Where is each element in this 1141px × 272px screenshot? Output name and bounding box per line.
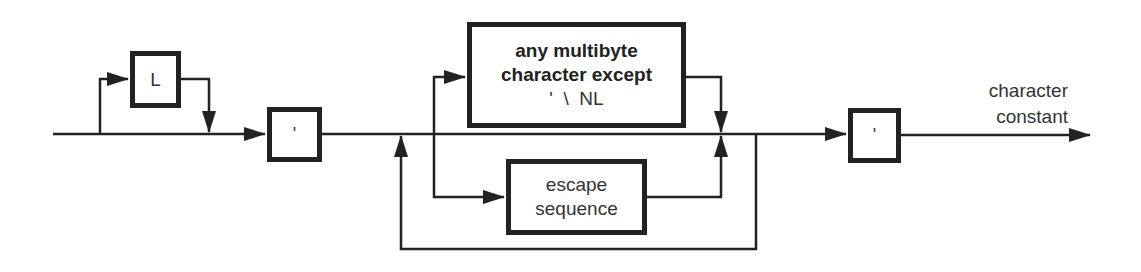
open-quote-label: ' — [293, 124, 296, 145]
multibyte-box: any multibyte character except ' \ NL — [467, 22, 686, 128]
prefix-l-box: L — [130, 51, 181, 108]
multibyte-line2: character except — [501, 63, 652, 87]
close-quote-box: ' — [848, 108, 901, 163]
l-branch-in — [100, 79, 128, 134]
escape-line2: sequence — [535, 197, 617, 221]
open-quote-box: ' — [267, 107, 322, 162]
escape-line1: escape — [546, 173, 607, 197]
close-quote-label: ' — [873, 125, 876, 146]
multibyte-line1: any multibyte — [515, 39, 637, 63]
to-multibyte — [434, 77, 465, 134]
from-multibyte — [686, 77, 721, 132]
l-branch-out — [181, 79, 209, 132]
output-label: character constant — [989, 78, 1068, 130]
to-escape — [434, 134, 504, 197]
from-escape — [646, 136, 721, 197]
multibyte-line3: ' \ NL — [549, 87, 603, 111]
output-label-line2: constant — [989, 104, 1068, 130]
prefix-l-label: L — [150, 68, 161, 92]
output-label-line1: character — [989, 78, 1068, 104]
escape-sequence-box: escape sequence — [506, 159, 647, 235]
